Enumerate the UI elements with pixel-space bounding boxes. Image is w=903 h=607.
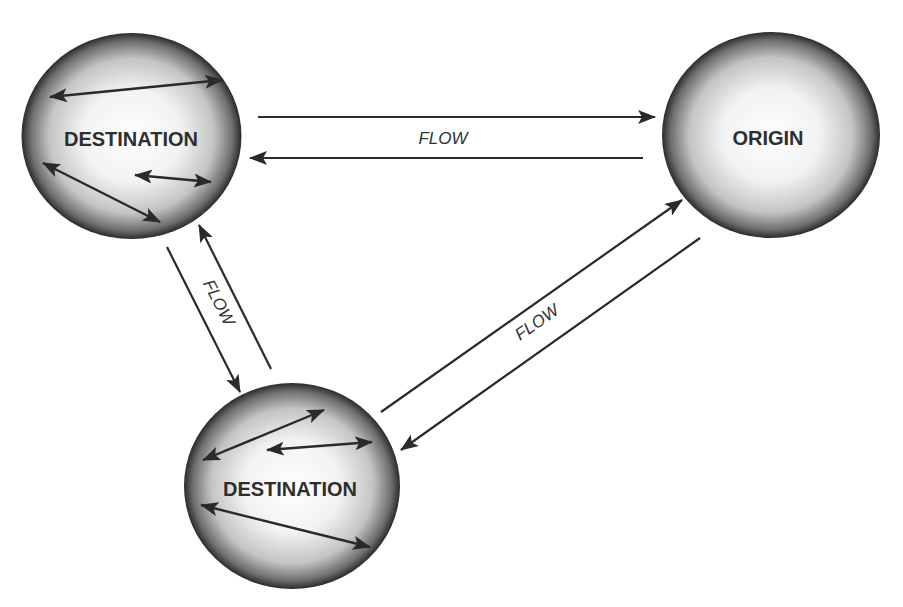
node-destination-bottom: DESTINATION [184, 383, 400, 589]
node-destination-top: DESTINATION [22, 33, 242, 239]
node-label-destination-top: DESTINATION [64, 128, 198, 150]
edge-destination-top-origin: FLOW [250, 117, 655, 158]
node-label-origin: ORIGIN [732, 127, 803, 149]
flow-label-diagonal: FLOW [511, 300, 564, 345]
edge-destination-bottom-origin: FLOW [381, 200, 700, 450]
flow-label-top: FLOW [418, 129, 469, 148]
flow-diagram: DESTINATION ORIGIN DESTINATION FLOW FLOW… [0, 0, 903, 607]
node-label-destination-bottom: DESTINATION [223, 478, 357, 500]
edge-destination-top-destination-bottom: FLOW [167, 225, 271, 392]
node-origin: ORIGIN [662, 32, 880, 238]
flow-arrow-up-right-icon [381, 200, 682, 412]
flow-arrow-down-left-icon [401, 238, 700, 450]
